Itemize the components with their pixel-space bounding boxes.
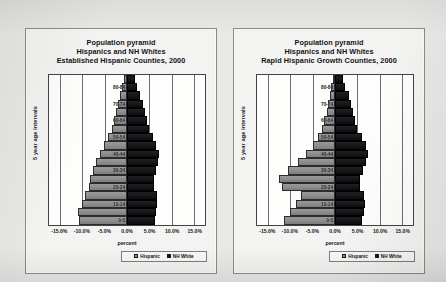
bar-nh-white	[127, 175, 154, 183]
age-band-label: 20-24	[113, 185, 126, 190]
legend-label-hispanic: Hispanic	[140, 254, 160, 259]
age-band-label: 20-24	[321, 185, 334, 190]
x-tick-label: 15.0%	[395, 228, 409, 234]
pyramid-row: 50-54	[49, 133, 205, 141]
chart-title-rapid-growth: Population pyramid Hispanics and NH Whit…	[234, 29, 424, 66]
pyramid-row: 40-44	[49, 150, 205, 158]
legend-item-nh-white: NH White	[167, 254, 194, 259]
pyramid-row: 40-44	[257, 150, 413, 158]
pyramid-row: 0-5	[257, 216, 413, 224]
bar-nh-white	[127, 125, 149, 133]
x-tick-label: -5.0%	[306, 228, 319, 234]
bar-nh-white	[127, 91, 140, 99]
x-tick-label: 10.0%	[373, 228, 387, 234]
pyramid-row: 50-54	[257, 133, 413, 141]
chart-title-established: Population pyramid Hispanics and NH Whit…	[26, 29, 216, 66]
x-tick-label: -10.0%	[282, 228, 298, 234]
age-band-label: 0-5	[118, 218, 126, 223]
x-axis-ticks: -15.0%-10.0%-5.0%0.0%5.0%10.0%15.0%	[48, 226, 206, 237]
bar-nh-white	[335, 200, 365, 208]
pyramid-row	[49, 125, 205, 133]
bar-nh-white	[127, 108, 145, 116]
pyramid-row: 80-84	[257, 83, 413, 91]
x-tick-label: -10.0%	[74, 228, 90, 234]
x-axis-ticks: -15.0%-10.0%-5.0%0.0%5.0%10.0%15.0%	[256, 226, 414, 237]
pyramid-row	[257, 91, 413, 99]
bar-hispanic	[290, 208, 335, 216]
x-axis-label: percent	[246, 240, 424, 246]
pyramid-row: 10-14	[257, 200, 413, 208]
age-band-label: 70-74	[321, 101, 334, 106]
bar-nh-white	[335, 166, 363, 174]
legend-swatch-hispanic	[342, 254, 346, 258]
pyramid-row	[49, 91, 205, 99]
figure-panels: Population pyramid Hispanics and NH Whit…	[0, 0, 446, 282]
legend-rapid-growth: Hispanic NH White	[329, 251, 415, 262]
bar-hispanic	[104, 141, 127, 149]
bar-hispanic	[85, 191, 127, 199]
x-tick-label: 10.0%	[165, 228, 179, 234]
bar-nh-white	[127, 191, 157, 199]
pyramid-row	[49, 75, 205, 83]
legend-swatch-nh-white	[167, 254, 171, 258]
pyramid-bars-established: 0-510-1420-2430-3440-4450-5460-6470-7480…	[49, 75, 205, 225]
pyramid-row: 10-14	[49, 200, 205, 208]
bar-hispanic	[313, 141, 335, 149]
bar-hispanic	[120, 91, 127, 99]
pyramid-row	[257, 125, 413, 133]
legend-item-hispanic: Hispanic	[134, 254, 160, 259]
bar-nh-white	[335, 108, 353, 116]
bar-nh-white	[127, 158, 158, 166]
title-line-3: Rapid Hispanic Growth Counties, 2000	[234, 56, 424, 65]
age-band-label: 10-14	[321, 201, 334, 206]
bar-nh-white	[335, 116, 355, 124]
legend-label-hispanic: Hispanic	[348, 254, 368, 259]
x-tick-label: 15.0%	[187, 228, 201, 234]
bar-nh-white	[335, 91, 349, 99]
pyramid-row	[257, 75, 413, 83]
bar-nh-white	[127, 116, 147, 124]
chart-panel-rapid-growth: Population pyramid Hispanics and NH Whit…	[233, 28, 425, 274]
bar-nh-white	[127, 133, 153, 141]
x-tick-label: 5.0%	[352, 228, 364, 234]
bar-nh-white	[127, 183, 154, 191]
title-line-2: Hispanics and NH Whites	[26, 47, 216, 56]
pyramid-row: 20-24	[257, 183, 413, 191]
bar-nh-white	[335, 133, 362, 141]
bar-hispanic	[322, 125, 335, 133]
bar-nh-white	[335, 216, 362, 224]
bar-nh-white	[335, 83, 345, 91]
plot-area-established: 0-510-1420-2430-3440-4450-5460-6470-7480…	[48, 74, 206, 226]
bar-nh-white	[127, 216, 155, 224]
age-band-label: 50-54	[113, 135, 126, 140]
bar-nh-white	[335, 100, 351, 108]
legend-swatch-hispanic	[134, 254, 138, 258]
pyramid-row	[257, 208, 413, 216]
plot-area-rapid-growth: 0-510-1420-2430-3440-4450-5460-6470-7480…	[256, 74, 414, 226]
pyramid-row: 30-34	[257, 166, 413, 174]
bar-hispanic	[96, 158, 127, 166]
bar-nh-white	[335, 141, 366, 149]
bar-nh-white	[335, 150, 368, 158]
age-band-label: 80-84	[113, 85, 126, 90]
age-band-label: 60-64	[321, 118, 334, 123]
pyramid-row: 20-24	[49, 183, 205, 191]
y-axis-label: 5 year age intervals	[32, 78, 38, 188]
x-tick-label: -5.0%	[98, 228, 111, 234]
bar-hispanic	[298, 158, 335, 166]
bar-nh-white	[335, 191, 364, 199]
pyramid-row	[257, 141, 413, 149]
age-band-label: 50-54	[321, 135, 334, 140]
pyramid-row	[49, 191, 205, 199]
bar-nh-white	[335, 208, 364, 216]
age-band-label: 30-34	[321, 168, 334, 173]
age-band-label: 80-84	[321, 85, 334, 90]
bar-hispanic	[90, 175, 127, 183]
bar-nh-white	[335, 158, 366, 166]
pyramid-row	[49, 175, 205, 183]
chart-panel-established: Population pyramid Hispanics and NH Whit…	[25, 28, 217, 274]
legend-item-hispanic: Hispanic	[342, 254, 368, 259]
title-line-3: Established Hispanic Counties, 2000	[26, 56, 216, 65]
age-band-label: 30-34	[113, 168, 126, 173]
x-axis-label: percent	[38, 240, 216, 246]
